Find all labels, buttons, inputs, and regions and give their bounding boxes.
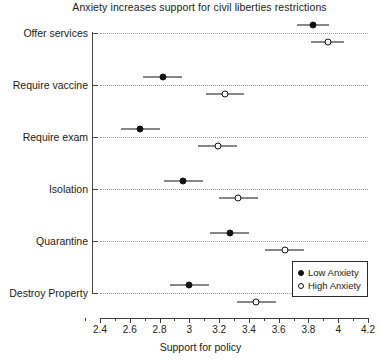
- y-axis-tick: [92, 137, 98, 138]
- x-axis-minor-tick: [174, 318, 175, 321]
- x-axis-minor-tick: [353, 318, 354, 321]
- legend-label: High Anxiety: [308, 279, 361, 292]
- y-axis-label-destroy-property: Destroy Property: [9, 287, 88, 299]
- x-axis-tick: [368, 318, 369, 323]
- y-axis-tick: [92, 189, 98, 190]
- x-axis-tick: [130, 318, 131, 323]
- x-axis-tick-label: 3.6: [272, 324, 286, 335]
- chart-legend: Low Anxiety High Anxiety: [292, 261, 368, 297]
- y-axis-label-quarantine: Quarantine: [36, 235, 88, 247]
- x-axis-tick: [249, 318, 250, 323]
- x-axis-tick-label: 3: [187, 324, 193, 335]
- data-point-low-anxiety: [226, 229, 233, 236]
- data-point-high-anxiety: [253, 298, 260, 305]
- data-point-low-anxiety: [309, 21, 316, 28]
- x-axis-tick-label: 4: [335, 324, 341, 335]
- gridline: [100, 33, 368, 34]
- x-axis-minor-tick: [85, 318, 86, 321]
- chart-title: Anxiety increases support for civil libe…: [0, 1, 381, 13]
- y-axis-label-isolation: Isolation: [49, 183, 88, 195]
- x-axis-tick-label: 2.8: [153, 324, 167, 335]
- y-axis-label-require-exam: Require exam: [23, 131, 88, 143]
- data-point-high-anxiety: [222, 90, 229, 97]
- x-axis-tick-label: 3.4: [242, 324, 256, 335]
- x-axis-minor-tick: [145, 318, 146, 321]
- open-circle-icon: [298, 283, 304, 289]
- y-axis-label-offer-services: Offer services: [23, 27, 88, 39]
- x-axis-tick: [279, 318, 280, 323]
- x-axis-minor-tick: [115, 318, 116, 321]
- data-point-low-anxiety: [180, 177, 187, 184]
- x-axis-tick-label: 3.8: [301, 324, 315, 335]
- legend-item-high-anxiety: High Anxiety: [298, 279, 361, 292]
- data-point-low-anxiety: [186, 281, 193, 288]
- x-axis-tick-label: 2.4: [93, 324, 107, 335]
- legend-item-low-anxiety: Low Anxiety: [298, 266, 361, 279]
- chart-container: Anxiety increases support for civil libe…: [0, 0, 381, 361]
- data-point-low-anxiety: [137, 125, 144, 132]
- x-axis-tick: [308, 318, 309, 323]
- filled-circle-icon: [298, 270, 304, 276]
- x-axis-tick-label: 3.2: [212, 324, 226, 335]
- x-axis-title: Support for policy: [0, 341, 381, 353]
- x-axis-tick-label: 4.2: [361, 324, 375, 335]
- gridline: [100, 241, 368, 242]
- x-axis-minor-tick: [204, 318, 205, 321]
- x-axis-tick: [100, 318, 101, 323]
- x-axis-tick-label: 2.6: [123, 324, 137, 335]
- y-axis-label-require-vaccine: Require vaccine: [13, 79, 88, 91]
- x-axis-minor-tick: [234, 318, 235, 321]
- data-point-low-anxiety: [159, 73, 166, 80]
- y-axis-tick: [92, 33, 98, 34]
- x-axis-minor-tick: [294, 318, 295, 321]
- x-axis-minor-tick: [264, 318, 265, 321]
- gridline: [100, 137, 368, 138]
- x-axis-tick: [160, 318, 161, 323]
- x-axis-tick: [189, 318, 190, 323]
- y-axis-line: [92, 32, 93, 294]
- data-point-high-anxiety: [281, 246, 288, 253]
- legend-label: Low Anxiety: [308, 266, 359, 279]
- data-point-high-anxiety: [214, 142, 221, 149]
- y-axis-tick: [92, 85, 98, 86]
- x-axis-tick: [338, 318, 339, 323]
- x-axis-minor-tick: [323, 318, 324, 321]
- gridline: [100, 189, 368, 190]
- y-axis-tick: [92, 241, 98, 242]
- y-axis-tick: [92, 293, 98, 294]
- data-point-high-anxiety: [235, 194, 242, 201]
- x-axis-tick: [219, 318, 220, 323]
- gridline: [100, 85, 368, 86]
- data-point-high-anxiety: [324, 38, 331, 45]
